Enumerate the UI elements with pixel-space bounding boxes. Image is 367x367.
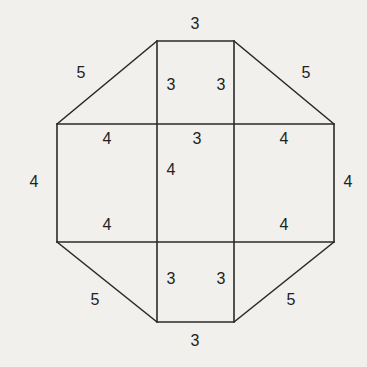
length-label-bottom-right-hyp: 5 <box>287 291 296 308</box>
net-diagram: 355334344444433553 <box>0 0 367 367</box>
length-label-h-bottom-right: 4 <box>280 216 289 233</box>
length-label-top-right-hyp: 5 <box>302 64 311 81</box>
length-label-top-left-hyp: 5 <box>77 64 86 81</box>
length-label-top-left-inner: 3 <box>167 76 176 93</box>
edge-diag-top-right <box>234 41 334 124</box>
length-label-h-top-mid: 3 <box>193 130 202 147</box>
length-label-top: 3 <box>191 15 200 32</box>
length-label-top-right-inner: 3 <box>217 76 226 93</box>
length-label-left: 4 <box>30 173 39 190</box>
length-label-h-bottom-left: 4 <box>103 216 112 233</box>
length-label-bottom-left-hyp: 5 <box>91 291 100 308</box>
length-label-bottom: 3 <box>191 332 200 349</box>
length-label-h-top-right: 4 <box>280 130 289 147</box>
edge-diag-top-left <box>57 41 157 124</box>
length-label-h-top-left: 4 <box>103 130 112 147</box>
edge-diag-bottom-left <box>57 242 157 322</box>
diagram-edges <box>57 41 334 322</box>
length-label-right: 4 <box>344 173 353 190</box>
length-label-bottom-right-inner: 3 <box>217 270 226 287</box>
diagram-labels: 355334344444433553 <box>30 15 353 349</box>
edge-diag-bottom-right <box>234 242 334 322</box>
length-label-bottom-left-inner: 3 <box>167 270 176 287</box>
length-label-center: 4 <box>167 161 176 178</box>
